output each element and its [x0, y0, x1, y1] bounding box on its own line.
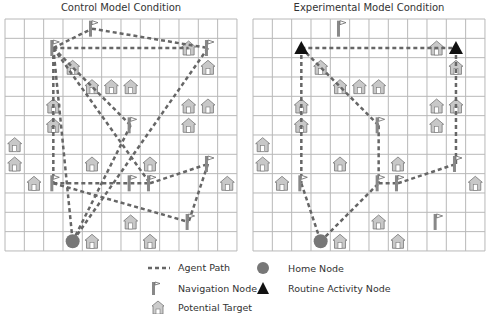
dashed-line-icon — [148, 263, 170, 273]
legend-navigation-node-label: Navigation Node — [178, 283, 257, 294]
house-icon — [220, 176, 234, 190]
house-icon — [8, 138, 22, 152]
flag-icon — [205, 156, 214, 172]
house-icon — [182, 118, 196, 132]
house-icon — [391, 157, 405, 171]
home-node-icon — [314, 234, 328, 248]
house-icon — [85, 234, 99, 248]
house-icon — [430, 118, 444, 132]
house-icon — [104, 80, 118, 94]
house-icon — [85, 157, 99, 171]
legend-routine-activity-node: Routine Activity Node — [256, 281, 391, 295]
flag-icon — [150, 281, 170, 295]
legend-potential-target: Potential Target — [146, 300, 252, 314]
flag-icon — [337, 21, 346, 37]
triangle-icon — [256, 281, 272, 295]
house-icon — [146, 300, 170, 314]
flag-icon — [205, 40, 214, 56]
legend-navigation-node: Navigation Node — [150, 281, 257, 295]
house-icon — [372, 80, 386, 94]
house-icon — [391, 234, 405, 248]
house-icon — [85, 80, 99, 94]
legend-home-node-label: Home Node — [288, 263, 344, 274]
legend-agent-path: Agent Path — [148, 262, 230, 273]
flag-icon — [298, 175, 307, 191]
experimental-grid — [253, 19, 485, 251]
house-icon — [201, 60, 215, 74]
triangle-icon — [294, 41, 308, 54]
house-icon — [8, 157, 22, 171]
house-icon — [201, 99, 215, 113]
grid-diagrams — [0, 0, 490, 255]
house-icon — [143, 234, 157, 248]
house-icon — [124, 80, 138, 94]
flag-icon — [434, 214, 443, 230]
house-icon — [333, 80, 347, 94]
house-icon — [275, 176, 289, 190]
flag-icon — [376, 117, 385, 133]
house-icon — [372, 215, 386, 229]
legend-home-node: Home Node — [256, 261, 344, 275]
legend-agent-path-label: Agent Path — [178, 262, 230, 273]
house-icon — [124, 215, 138, 229]
home-circle-icon — [256, 261, 272, 275]
legend-routine-activity-node-label: Routine Activity Node — [288, 283, 391, 294]
house-icon — [182, 99, 196, 113]
house-icon — [143, 157, 157, 171]
house-icon — [256, 138, 270, 152]
control-grid — [5, 19, 237, 251]
house-icon — [333, 157, 347, 171]
home-node-icon — [66, 234, 80, 248]
flag-icon — [186, 214, 195, 230]
flag-icon — [128, 117, 137, 133]
house-icon — [256, 157, 270, 171]
legend-potential-target-label: Potential Target — [178, 302, 252, 313]
house-icon — [333, 234, 347, 248]
house-icon — [468, 176, 482, 190]
house-icon — [27, 176, 41, 190]
flag-icon — [453, 156, 462, 172]
house-icon — [352, 80, 366, 94]
house-icon — [430, 99, 444, 113]
